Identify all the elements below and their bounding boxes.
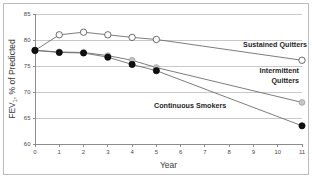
y-axis-title: FEV1, % of Predicted [7, 39, 18, 119]
x-tick-label-10: 10 [274, 149, 281, 155]
marker-0-1 [56, 32, 62, 38]
marker-2-4 [129, 61, 135, 67]
x-tick-label-8: 8 [228, 149, 232, 155]
x-tick-label-7: 7 [203, 149, 207, 155]
annotation-label: Sustained Quitters [243, 40, 307, 49]
x-tick-label-11: 11 [299, 149, 306, 155]
x-tick-label-3: 3 [106, 149, 110, 155]
marker-0-4 [129, 34, 135, 40]
figure-container: 60657075808501234567891011 Sustained Qui… [0, 0, 312, 181]
annotation-label: Quitters [271, 76, 299, 85]
marker-2-1 [56, 49, 62, 55]
y-tick-label-60: 60 [24, 141, 31, 147]
x-tick-label-4: 4 [130, 149, 134, 155]
series-line-2 [35, 50, 302, 125]
x-tick-label-1: 1 [58, 149, 62, 155]
annotation-label: Intermittent [259, 66, 299, 75]
marker-2-5 [153, 68, 159, 74]
x-tick-label-0: 0 [33, 149, 37, 155]
marker-0-3 [105, 32, 111, 38]
x-axis-title: Year [160, 160, 177, 170]
x-tick-label-2: 2 [82, 149, 86, 155]
tick-labels: 60657075808501234567891011 [24, 11, 306, 154]
y-tick-label-70: 70 [24, 89, 31, 95]
y-tick-label-65: 65 [24, 115, 31, 121]
marker-1-6 [299, 100, 305, 106]
annotation-label: Continuous Smokers [154, 101, 226, 110]
x-tick-label-9: 9 [252, 149, 256, 155]
marker-2-6 [299, 123, 305, 129]
marker-2-3 [105, 54, 111, 60]
marker-0-6 [299, 57, 305, 63]
y-tick-label-75: 75 [24, 63, 31, 69]
x-tick-label-6: 6 [179, 149, 183, 155]
y-tick-label-80: 80 [24, 37, 31, 43]
y-tick-label-85: 85 [24, 11, 31, 17]
y-axis-title-text: FEV1, % of Predicted [7, 39, 18, 119]
marker-2-0 [32, 47, 38, 53]
marker-0-5 [153, 36, 159, 42]
series-line-1 [35, 50, 302, 102]
axis-ticks [33, 14, 303, 147]
line-chart: 60657075808501234567891011 Sustained Qui… [0, 0, 312, 181]
x-tick-label-5: 5 [155, 149, 159, 155]
marker-2-2 [80, 50, 86, 56]
marker-0-2 [80, 29, 86, 35]
